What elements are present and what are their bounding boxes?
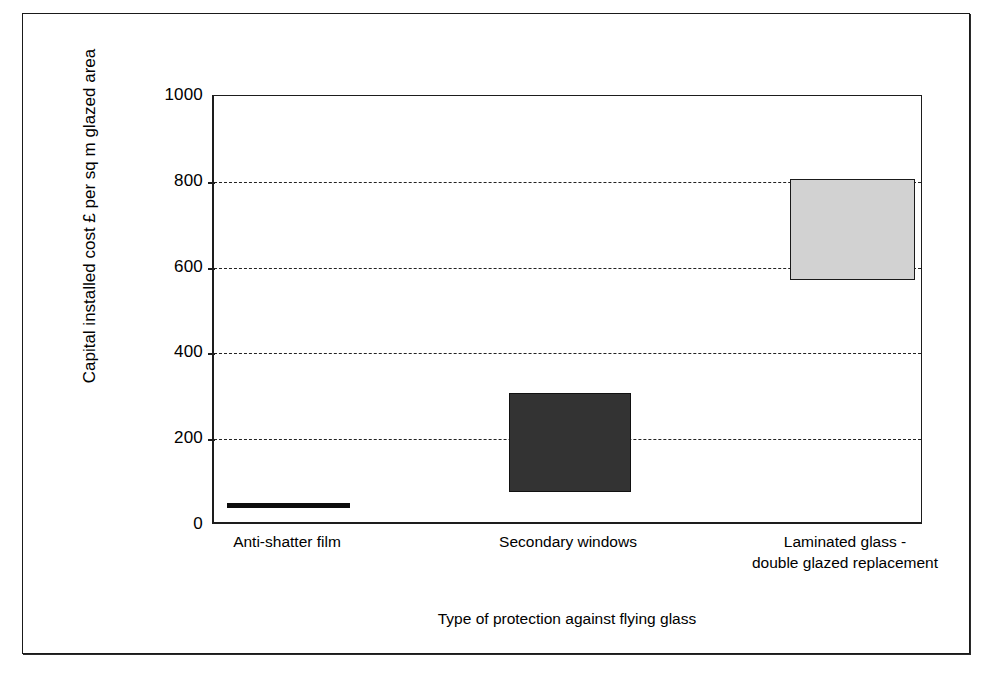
plot-area (212, 95, 922, 524)
y-tick-label-400: 400 (174, 342, 203, 362)
x-axis-title: Type of protection against flying glass (212, 610, 922, 628)
bar-laminated-glass (790, 179, 915, 280)
y-tick-label-600: 600 (174, 257, 203, 277)
y-tick-label-200: 200 (174, 428, 203, 448)
y-axis-title: Capital installed cost £ per sq m glazed… (80, 6, 100, 426)
chart-figure-frame: Capital installed cost £ per sq m glazed… (22, 13, 970, 654)
x-category-label-laminated-glass: Laminated glass - double glazed replacem… (720, 531, 970, 573)
y-tick-mark-600 (208, 268, 215, 270)
x-category-label-secondary-windows: Secondary windows (443, 531, 693, 552)
y-tick-mark-800 (208, 182, 215, 184)
gridline-400 (214, 353, 921, 354)
y-tick-label-800: 800 (174, 171, 203, 191)
y-tick-mark-200 (208, 439, 215, 441)
y-axis-tick-labels: 1000 800 600 400 200 0 (133, 95, 203, 524)
y-tick-mark-400 (208, 353, 215, 355)
bar-secondary-windows (509, 393, 631, 492)
x-category-label-anti-shatter-film: Anti-shatter film (162, 531, 412, 552)
y-tick-label-1000: 1000 (164, 85, 203, 105)
bar-anti-shatter-film (227, 503, 350, 508)
